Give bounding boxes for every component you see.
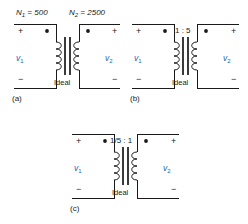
primary-coil-c (114, 152, 119, 180)
secondary-plus-sign-a: + (112, 26, 117, 36)
primary-minus-sign-b: − (136, 74, 141, 84)
diagram-svg-a: N1 = 500 N2 = 2500 + − + − v1 v2 Ideal (… (0, 0, 124, 114)
diagram-svg-c: + − + − v1 v2 1/5 : 1 Ideal (c) (62, 110, 186, 224)
transformer-diagram-c: + − + − v1 v2 1/5 : 1 Ideal (c) (62, 110, 186, 224)
primary-plus-sign-b: + (136, 26, 141, 36)
secondary-turns-label-a: N2 = 2500 (69, 8, 106, 18)
secondary-minus-sign-a: − (112, 74, 117, 84)
ideal-label-c: Ideal (112, 188, 129, 197)
primary-plus-sign-a: + (18, 26, 23, 36)
turns-ratio-label-c: 1/5 : 1 (110, 136, 133, 145)
secondary-plus-sign-c: + (171, 136, 176, 146)
panel-caption-c: (c) (70, 204, 80, 213)
primary-minus-sign-a: − (18, 74, 23, 84)
primary-plus-sign-c: + (76, 136, 81, 146)
primary-voltage-label-a: v1 (16, 53, 24, 64)
primary-polarity-dot-a (45, 29, 49, 33)
secondary-minus-sign-c: − (171, 184, 176, 194)
figure-root: N1 = 500 N2 = 2500 + − + − v1 v2 Ideal (… (0, 0, 248, 224)
primary-polarity-dot-b (163, 29, 167, 33)
secondary-polarity-dot-c (144, 139, 148, 143)
secondary-coil-b (192, 42, 197, 70)
ideal-label-b: Ideal (172, 78, 189, 87)
secondary-minus-sign-b: − (231, 74, 236, 84)
turns-ratio-label-b: 1 : 5 (175, 26, 191, 35)
primary-voltage-label-c: v1 (74, 163, 82, 174)
secondary-plus-sign-b: + (231, 26, 236, 36)
panel-caption-b: (b) (130, 94, 140, 103)
primary-coil-a (56, 42, 61, 70)
transformer-diagram-a: N1 = 500 N2 = 2500 + − + − v1 v2 Ideal (… (0, 0, 124, 112)
primary-voltage-label-b: v1 (134, 53, 142, 64)
secondary-voltage-label-b: v2 (223, 53, 231, 64)
secondary-polarity-dot-b (204, 29, 208, 33)
primary-polarity-dot-c (103, 139, 107, 143)
primary-coil-b (174, 42, 179, 70)
diagram-svg-b: + − + − v1 v2 1 : 5 Ideal (b) (124, 0, 248, 114)
secondary-coil-a (74, 42, 79, 70)
transformer-diagram-b: + − + − v1 v2 1 : 5 Ideal (b) (124, 0, 248, 112)
secondary-polarity-dot-a (86, 29, 90, 33)
secondary-voltage-label-c: v2 (163, 163, 171, 174)
secondary-coil-c (132, 152, 137, 180)
ideal-label-a: Ideal (54, 78, 71, 87)
panel-caption-a: (a) (12, 94, 22, 103)
primary-turns-label-a: N1 = 500 (16, 8, 48, 18)
secondary-voltage-label-a: v2 (105, 53, 113, 64)
primary-minus-sign-c: − (76, 184, 81, 194)
